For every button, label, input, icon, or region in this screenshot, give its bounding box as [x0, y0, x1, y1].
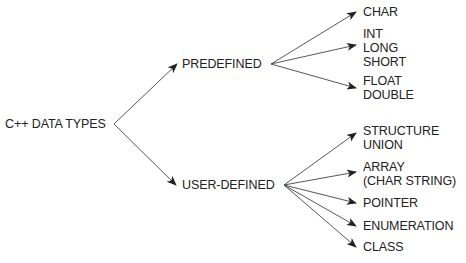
leaf-line: CLASS	[363, 240, 404, 254]
leaf-class: CLASS	[363, 240, 404, 254]
cpp-data-types-diagram: C++ DATA TYPES PREDEFINED USER-DEFINED C…	[0, 0, 466, 263]
root-node-label: C++ DATA TYPES	[5, 117, 106, 131]
leaf-enumeration: ENUMERATION	[363, 219, 453, 233]
branch-user-defined-label: USER-DEFINED	[182, 178, 275, 192]
arrow-root-to-predefined	[114, 64, 177, 124]
arrow-user-defined-to-array	[284, 172, 356, 185]
arrow-user-defined-to-structure-union	[284, 133, 356, 185]
leaf-line: STRUCTURE	[363, 124, 439, 138]
leaf-line: ARRAY	[363, 160, 456, 174]
leaf-line: POINTER	[363, 196, 418, 210]
leaf-line: INT	[363, 27, 406, 41]
leaf-structure-union: STRUCTURE UNION	[363, 124, 439, 152]
leaf-line: CHAR	[363, 5, 398, 19]
leaf-line: (CHAR STRING)	[363, 174, 456, 188]
leaf-int-long-short: INT LONG SHORT	[363, 27, 406, 69]
arrow-predefined-to-char	[271, 12, 356, 64]
leaf-line: FLOAT	[363, 74, 414, 88]
leaf-array-char-string: ARRAY (CHAR STRING)	[363, 160, 456, 188]
leaf-pointer: POINTER	[363, 196, 418, 210]
arrow-user-defined-to-enumeration	[284, 185, 356, 226]
branch-predefined-label: PREDEFINED	[182, 57, 262, 71]
leaf-float-double: FLOAT DOUBLE	[363, 74, 414, 102]
leaf-line: UNION	[363, 138, 439, 152]
leaf-char: CHAR	[363, 5, 398, 19]
leaf-line: ENUMERATION	[363, 219, 453, 233]
leaf-line: DOUBLE	[363, 88, 414, 102]
arrow-root-to-user-defined	[114, 124, 176, 185]
arrow-predefined-to-float-double	[271, 64, 356, 88]
leaf-line: LONG	[363, 41, 406, 55]
leaf-line: SHORT	[363, 55, 406, 69]
arrow-predefined-to-int-long-short	[271, 45, 356, 64]
